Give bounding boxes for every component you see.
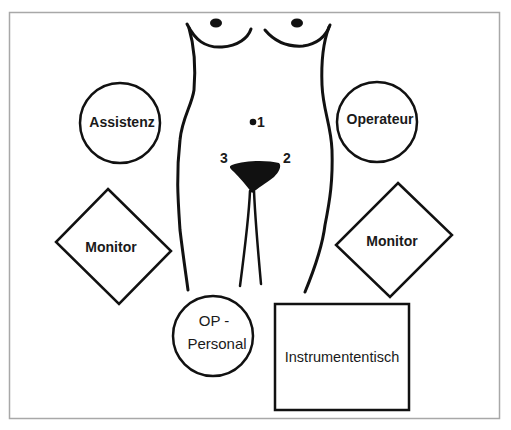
monitor-left-label: Monitor bbox=[85, 240, 136, 254]
op-personal-label-line2: Personal bbox=[187, 336, 246, 351]
op-personal-label-line1: OP - bbox=[199, 313, 230, 328]
left-leg-inner-line bbox=[240, 191, 250, 286]
right-torso-outline bbox=[305, 27, 332, 292]
port-2-label: 2 bbox=[283, 151, 291, 165]
left-torso-outline bbox=[178, 28, 195, 290]
instrumententisch-label: Instrumententisch bbox=[285, 350, 399, 365]
assistenz-label: Assistenz bbox=[89, 115, 154, 129]
right-nipple bbox=[291, 19, 303, 28]
operateur-label: Operateur bbox=[347, 112, 414, 126]
port-1-label: 1 bbox=[257, 115, 265, 129]
diagram-canvas bbox=[0, 0, 511, 430]
pubic-region bbox=[230, 161, 280, 193]
right-leg-inner-line bbox=[254, 191, 261, 284]
right-breast-outline bbox=[265, 25, 330, 46]
left-breast-outline bbox=[187, 24, 251, 47]
port-3-label: 3 bbox=[220, 151, 228, 165]
monitor-right-label: Monitor bbox=[366, 234, 417, 248]
left-nipple bbox=[210, 19, 222, 28]
port-1-dot bbox=[250, 119, 257, 126]
patient-body bbox=[178, 24, 333, 292]
or-layout-diagram: 1 2 3 Assistenz Operateur Monitor Monito… bbox=[0, 0, 511, 430]
